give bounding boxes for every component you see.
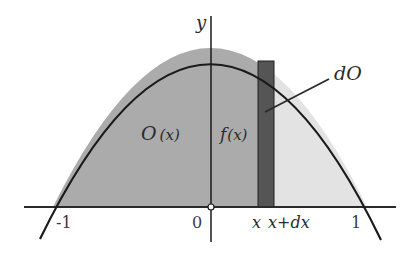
tick-zero: 0 <box>192 213 202 232</box>
tick-minus-one: -1 <box>56 213 72 232</box>
label-f-of-x: f(x) <box>218 124 248 144</box>
label-d-o: dO <box>334 62 362 84</box>
diagram-canvas: y -1 0 1 x x+dx O(x) f(x) dO <box>0 0 418 262</box>
y-axis-label: y <box>195 12 207 33</box>
label-x-plus-dx: x+dx <box>268 213 310 232</box>
area-diagram: y -1 0 1 x x+dx O(x) f(x) dO <box>0 0 418 262</box>
area-o-of-x <box>40 0 258 207</box>
origin-marker <box>208 204 214 210</box>
tick-one: 1 <box>351 213 361 232</box>
label-x: x <box>252 213 261 232</box>
label-o-of-x: O(x) <box>141 122 180 144</box>
